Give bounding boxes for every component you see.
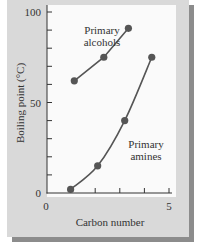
y-tick-label: 0 bbox=[36, 187, 42, 199]
alcohols-point bbox=[125, 25, 132, 32]
amines-label: Primary bbox=[128, 138, 164, 150]
amines-point bbox=[94, 162, 101, 169]
alcohols-label: Primary bbox=[84, 24, 120, 36]
amines-point bbox=[121, 117, 128, 124]
y-axis-title: Boiling point (°C) bbox=[14, 63, 27, 144]
y-tick-label: 50 bbox=[30, 97, 42, 109]
amines-point bbox=[67, 186, 74, 193]
amines-label: amines bbox=[130, 150, 161, 162]
x-tick-label: 0 bbox=[43, 200, 49, 212]
boiling-point-chart: 10050005Carbon numberBoiling point (°C)P… bbox=[0, 0, 198, 242]
x-tick-label: 5 bbox=[166, 200, 172, 212]
amines-point bbox=[148, 54, 155, 61]
x-axis-title: Carbon number bbox=[76, 216, 145, 228]
alcohols-label: alcohols bbox=[84, 36, 121, 48]
alcohols-point bbox=[71, 77, 78, 84]
alcohols-point bbox=[100, 54, 107, 61]
y-tick-label: 100 bbox=[25, 6, 42, 18]
